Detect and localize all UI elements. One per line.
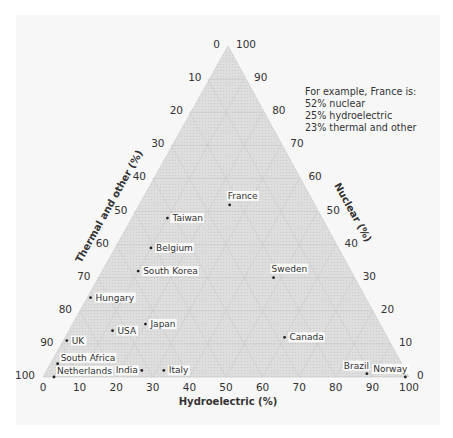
example-annotation: For example, France is: 52% nuclear 25% … — [305, 86, 417, 134]
point-label: Belgium — [156, 243, 193, 253]
right-tick-label: 60 — [308, 170, 321, 182]
point-label: USA — [118, 326, 137, 336]
bottom-axis-title: Hydroelectric (%) — [179, 396, 277, 407]
point-marker — [366, 372, 369, 375]
bottom-tick-label: 20 — [110, 381, 123, 393]
bottom-tick-label: 10 — [73, 381, 86, 393]
annotation-line: 52% nuclear — [305, 98, 417, 110]
data-point: South Korea — [137, 266, 199, 276]
bottom-tick-label: 50 — [219, 381, 232, 393]
point-label: Brazil — [344, 361, 369, 371]
point-marker — [283, 336, 286, 339]
bottom-tick-label: 70 — [293, 381, 306, 393]
left-tick-label: 90 — [40, 336, 53, 348]
point-marker — [140, 369, 143, 372]
point-marker — [56, 362, 59, 365]
point-label: Canada — [290, 332, 324, 342]
point-marker — [228, 203, 231, 206]
point-marker — [166, 217, 169, 220]
bottom-tick-label: 40 — [183, 381, 196, 393]
point-label: India — [116, 365, 138, 375]
annotation-line: 25% hydroelectric — [305, 110, 417, 122]
right-tick-label: 0 — [417, 369, 424, 381]
left-tick-label: 70 — [77, 270, 90, 282]
point-label: Sweden — [272, 264, 308, 274]
data-point: Taiwan — [166, 213, 204, 223]
data-point: Hungary — [89, 293, 136, 303]
right-tick-label: 50 — [327, 204, 340, 216]
point-label: Norway — [373, 364, 408, 374]
point-label: France — [228, 191, 258, 201]
bottom-tick-label: 100 — [399, 381, 419, 393]
point-label: South Korea — [143, 266, 198, 276]
point-label: South Africa — [61, 353, 116, 363]
point-marker — [404, 376, 407, 379]
right-tick-label: 80 — [272, 104, 285, 116]
left-tick-label: 40 — [133, 170, 146, 182]
right-tick-label: 30 — [363, 270, 376, 282]
bottom-tick-label: 90 — [366, 381, 379, 393]
data-point: Canada — [283, 332, 325, 342]
point-label: Hungary — [96, 293, 135, 303]
point-marker — [144, 323, 147, 326]
left-tick-label: 0 — [213, 38, 220, 50]
ternary-chart: 0102030405060708090100 01020304050607080… — [0, 0, 453, 438]
bottom-tick-label: 60 — [256, 381, 269, 393]
point-marker — [137, 270, 140, 273]
right-tick-label: 70 — [290, 137, 303, 149]
point-marker — [150, 247, 153, 250]
left-tick-label: 80 — [59, 303, 72, 315]
right-tick-label: 40 — [345, 237, 358, 249]
point-label: Japan — [149, 319, 175, 329]
right-tick-label: 90 — [254, 71, 267, 83]
point-marker — [111, 329, 114, 332]
bottom-axis-ticks: 0102030405060708090100 — [40, 381, 419, 393]
right-tick-label: 10 — [399, 336, 412, 348]
point-marker — [65, 339, 68, 342]
left-tick-label: 100 — [15, 369, 35, 381]
point-label: Taiwan — [171, 213, 203, 223]
left-tick-label: 50 — [114, 204, 127, 216]
left-tick-label: 60 — [96, 237, 109, 249]
point-marker — [53, 376, 56, 379]
right-tick-label: 20 — [381, 303, 394, 315]
point-marker — [162, 369, 165, 372]
point-marker — [272, 276, 275, 279]
left-tick-label: 30 — [151, 137, 164, 149]
point-label: Netherlands — [57, 366, 112, 376]
data-point: Japan — [144, 319, 177, 329]
annotation-line: 23% thermal and other — [305, 122, 417, 134]
data-point: Belgium — [150, 243, 194, 253]
bottom-tick-label: 80 — [329, 381, 342, 393]
point-marker — [89, 296, 92, 299]
left-tick-label: 10 — [188, 71, 201, 83]
annotation-line: For example, France is: — [305, 86, 417, 98]
left-tick-label: 20 — [170, 104, 183, 116]
right-tick-label: 100 — [236, 38, 256, 50]
point-label: UK — [72, 336, 86, 346]
point-label: Italy — [169, 365, 189, 375]
bottom-tick-label: 30 — [146, 381, 159, 393]
bottom-tick-label: 0 — [40, 381, 47, 393]
